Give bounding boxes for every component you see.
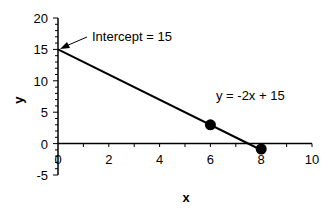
x-tick-4: 4 xyxy=(156,152,163,167)
chart: 20 15 10 5 0 -5 y 0 2 4 6 8 10 x Interce… xyxy=(0,0,329,214)
y-axis-label: y xyxy=(11,96,26,104)
x-tick-10: 10 xyxy=(305,152,319,167)
y-tick-neg5: -5 xyxy=(36,168,48,183)
x-tick-6: 6 xyxy=(207,152,214,167)
x-axis-label: x xyxy=(182,190,190,205)
intercept-label: Intercept = 15 xyxy=(92,29,172,44)
y-tick-0: 0 xyxy=(41,137,48,152)
intercept-annotation: Intercept = 15 xyxy=(60,29,172,49)
y-tick-5: 5 xyxy=(41,105,48,120)
y-axis: 20 15 10 5 0 -5 y xyxy=(11,11,58,183)
x-tick-0: 0 xyxy=(54,152,61,167)
arrow-icon xyxy=(60,42,70,49)
y-tick-15: 15 xyxy=(34,42,48,57)
x-tick-2: 2 xyxy=(105,152,112,167)
y-tick-20: 20 xyxy=(34,11,48,26)
x-axis: 0 2 4 6 8 10 x xyxy=(54,144,319,205)
equation-label: y = -2x + 15 xyxy=(216,88,285,103)
data-point-8-neg1 xyxy=(256,144,267,155)
data-point-6-3 xyxy=(205,119,216,130)
y-tick-10: 10 xyxy=(34,74,48,89)
